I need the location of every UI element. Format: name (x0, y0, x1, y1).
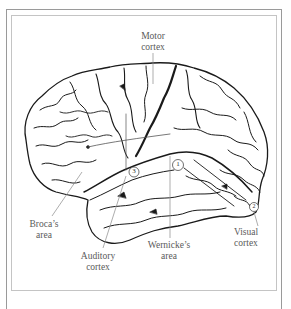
marker-2: 2 (253, 201, 256, 212)
label-wernickes-area: Wernicke’s area (148, 240, 191, 262)
leader-broca (52, 172, 82, 216)
marker-3: 3 (132, 166, 136, 177)
leader-visual (254, 212, 258, 226)
leader-auditory (103, 176, 126, 248)
central-sulcus (136, 66, 176, 156)
marker-1: 1 (176, 159, 180, 170)
label-auditory-cortex: Auditory cortex (81, 251, 115, 273)
label-brocas-area: Broca’s area (29, 219, 58, 241)
label-visual-cortex: Visual cortex (234, 227, 258, 249)
label-motor-cortex: Motor cortex (141, 31, 165, 53)
